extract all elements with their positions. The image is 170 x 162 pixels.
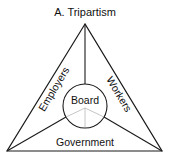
board-label: Board bbox=[71, 94, 99, 106]
government-label: Government bbox=[56, 136, 114, 148]
tripartism-diagram: A. Tripartism Board Employers Workers Go… bbox=[0, 0, 170, 162]
diagram-title: A. Tripartism bbox=[54, 6, 116, 18]
